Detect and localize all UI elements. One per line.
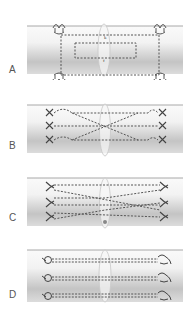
- panel-a-diagram: k f: [0, 0, 193, 80]
- cross-section-ellipse: [98, 24, 110, 76]
- panel-label-a: A: [9, 64, 16, 75]
- panel-b-diagram: [0, 80, 193, 160]
- panel-label-b: B: [9, 140, 16, 151]
- panel-c-diagram: [0, 160, 193, 238]
- knot-point: [103, 220, 107, 224]
- cross-section-ellipse: [100, 104, 111, 156]
- panel-c: C: [0, 160, 193, 238]
- panel-b: B: [0, 80, 193, 160]
- panel-d: D: [0, 238, 193, 313]
- panel-label-c: C: [9, 212, 16, 223]
- panel-label-d: D: [9, 289, 16, 300]
- panel-d-diagram: [0, 238, 193, 313]
- panel-a: k f A: [0, 0, 193, 80]
